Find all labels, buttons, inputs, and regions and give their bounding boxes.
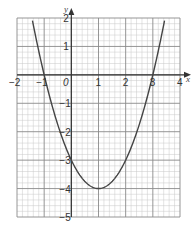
y-tick-label: −2 <box>59 127 71 138</box>
x-tick-label: 2 <box>123 77 129 88</box>
y-tick-label: −4 <box>59 184 71 195</box>
y-axis-label: y <box>63 4 68 14</box>
y-tick-label: −1 <box>59 98 71 109</box>
y-tick-label: −5 <box>59 212 71 223</box>
y-tick-label: 2 <box>63 13 69 24</box>
x-axis-label: x <box>185 74 190 84</box>
x-tick-label: −2 <box>9 77 21 88</box>
major-grid <box>17 18 180 217</box>
x-tick-label: 4 <box>177 77 183 88</box>
y-tick-label: −3 <box>59 155 71 166</box>
y-tick-labels: 21−1−2−3−4−5 <box>59 13 71 223</box>
x-tick-label: 1 <box>96 77 102 88</box>
x-tick-label: 3 <box>150 77 156 88</box>
x-tick-label: −1 <box>36 77 48 88</box>
y-tick-label: 1 <box>63 41 69 52</box>
origin-label: 0 <box>63 77 69 88</box>
parabola-chart: −2−11234 21−1−2−3−4−5 x y 0 <box>0 0 193 229</box>
